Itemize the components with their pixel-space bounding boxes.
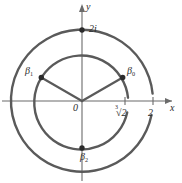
x-tick-label-2: 2 xyxy=(148,108,153,118)
radicand: 2 xyxy=(122,107,127,118)
x-tick-label-cbrt2: 3√2 xyxy=(116,108,127,118)
ray-to-beta-0 xyxy=(82,78,123,102)
point-beta-0 xyxy=(120,75,125,80)
radical-index: 3 xyxy=(115,104,118,110)
y-axis-arrow-icon xyxy=(79,4,85,12)
inner-circle xyxy=(34,56,128,150)
point-beta-2 xyxy=(79,145,84,150)
beta-1-subscript: 1 xyxy=(30,70,33,77)
point-two-i xyxy=(79,27,84,32)
ray-to-beta-1 xyxy=(41,78,82,102)
point-label-beta-2: β2 xyxy=(80,152,88,162)
point-label-beta-0: β0 xyxy=(127,66,135,76)
y-tick-label-2i: 2i xyxy=(89,24,97,34)
beta-0-subscript: 0 xyxy=(132,70,135,77)
complex-plane-figure: y x 0 2i β0 β1 β2 3√2 2 xyxy=(0,0,182,183)
point-beta-1 xyxy=(39,75,44,80)
x-axis-label: x xyxy=(170,103,174,113)
cube-root-radical-icon: 3√2 xyxy=(116,108,127,118)
origin-label: 0 xyxy=(73,103,78,113)
y-axis-label: y xyxy=(86,2,90,12)
beta-2-subscript: 2 xyxy=(85,156,88,163)
point-label-beta-1: β1 xyxy=(25,66,33,76)
